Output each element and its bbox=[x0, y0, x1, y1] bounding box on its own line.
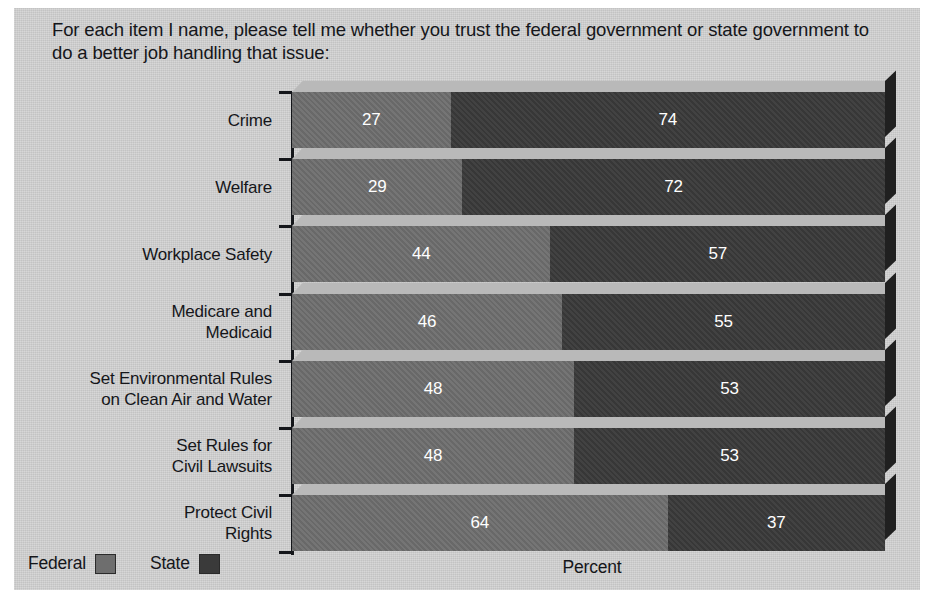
legend-swatch-state bbox=[199, 554, 220, 574]
bar-value-state: 74 bbox=[451, 110, 885, 130]
bar-row: 6437 bbox=[292, 495, 885, 551]
chart-legend: Federal State bbox=[28, 553, 220, 574]
x-axis-title: Percent bbox=[292, 557, 892, 578]
bar-segment-federal[interactable]: 29 bbox=[292, 159, 462, 215]
bar-value-state: 57 bbox=[550, 244, 885, 264]
bar-row: 2774 bbox=[292, 92, 885, 148]
bar-value-state: 55 bbox=[562, 312, 885, 332]
bar-side-bevel bbox=[885, 70, 896, 137]
bar-row: 2972 bbox=[292, 159, 885, 215]
bar-value-state: 72 bbox=[462, 177, 885, 197]
bar-segment-state[interactable]: 74 bbox=[451, 92, 885, 148]
category-label: Medicare and Medicaid bbox=[0, 301, 292, 343]
plot-area: CrimeWelfareWorkplace SafetyMedicare and… bbox=[0, 0, 932, 602]
bar-value-federal: 29 bbox=[292, 177, 462, 197]
bar-row: 4655 bbox=[292, 294, 885, 350]
bar-segment-state[interactable]: 53 bbox=[574, 361, 885, 417]
category-label-wrap: Medicare and Medicaid bbox=[0, 294, 292, 350]
bar-row: 4853 bbox=[292, 428, 885, 484]
category-label-wrap: Welfare bbox=[0, 159, 292, 215]
category-label-wrap: Crime bbox=[0, 92, 292, 148]
category-label-wrap: Workplace Safety bbox=[0, 226, 292, 282]
bar-top-bevel bbox=[292, 283, 896, 294]
bar-side-bevel bbox=[885, 406, 896, 473]
legend-label-federal: Federal bbox=[28, 553, 86, 574]
bar-top-bevel bbox=[292, 484, 896, 495]
bar-segment-state[interactable]: 72 bbox=[462, 159, 885, 215]
category-label: Protect Civil Rights bbox=[0, 502, 292, 544]
legend-item-federal[interactable]: Federal bbox=[28, 553, 116, 574]
bar-segment-federal[interactable]: 44 bbox=[292, 226, 550, 282]
category-label: Crime bbox=[0, 110, 292, 131]
bar-value-federal: 64 bbox=[292, 513, 668, 533]
bar-value-federal: 48 bbox=[292, 379, 574, 399]
chart-root: For each item I name, please tell me whe… bbox=[0, 0, 932, 602]
bar-value-state: 53 bbox=[574, 379, 885, 399]
bar-value-federal: 44 bbox=[292, 244, 550, 264]
bar-value-federal: 27 bbox=[292, 110, 451, 130]
bar-segment-federal[interactable]: 46 bbox=[292, 294, 562, 350]
category-label-wrap: Set Rules for Civil Lawsuits bbox=[0, 428, 292, 484]
category-label-wrap: Protect Civil Rights bbox=[0, 495, 292, 551]
category-label: Workplace Safety bbox=[0, 244, 292, 265]
bar-segment-federal[interactable]: 48 bbox=[292, 361, 574, 417]
bar-top-bevel bbox=[292, 417, 896, 428]
bar-side-bevel bbox=[885, 339, 896, 406]
legend-swatch-federal bbox=[95, 554, 116, 574]
bar-top-bevel bbox=[292, 148, 896, 159]
bar-top-bevel bbox=[292, 350, 896, 361]
bar-side-bevel bbox=[885, 138, 896, 205]
bar-value-federal: 48 bbox=[292, 446, 574, 466]
bar-segment-state[interactable]: 55 bbox=[562, 294, 885, 350]
category-label: Set Rules for Civil Lawsuits bbox=[0, 435, 292, 477]
bar-top-bevel bbox=[292, 81, 896, 92]
y-axis-tick bbox=[279, 551, 292, 554]
bar-segment-federal[interactable]: 27 bbox=[292, 92, 451, 148]
bar-row: 4853 bbox=[292, 361, 885, 417]
category-label: Welfare bbox=[0, 177, 292, 198]
legend-label-state: State bbox=[150, 553, 190, 574]
bar-row: 4457 bbox=[292, 226, 885, 282]
category-label: Set Environmental Rules on Clean Air and… bbox=[0, 368, 292, 410]
bar-side-bevel bbox=[885, 205, 896, 272]
bar-segment-state[interactable]: 57 bbox=[550, 226, 885, 282]
bar-side-bevel bbox=[885, 272, 896, 339]
bar-segment-federal[interactable]: 48 bbox=[292, 428, 574, 484]
bar-value-state: 53 bbox=[574, 446, 885, 466]
bar-segment-state[interactable]: 37 bbox=[668, 495, 885, 551]
bar-top-bevel bbox=[292, 215, 896, 226]
bar-segment-state[interactable]: 53 bbox=[574, 428, 885, 484]
legend-item-state[interactable]: State bbox=[150, 553, 220, 574]
bar-value-federal: 46 bbox=[292, 312, 562, 332]
bar-segment-federal[interactable]: 64 bbox=[292, 495, 668, 551]
category-label-wrap: Set Environmental Rules on Clean Air and… bbox=[0, 361, 292, 417]
bar-side-bevel bbox=[885, 474, 896, 541]
bar-value-state: 37 bbox=[668, 513, 885, 533]
